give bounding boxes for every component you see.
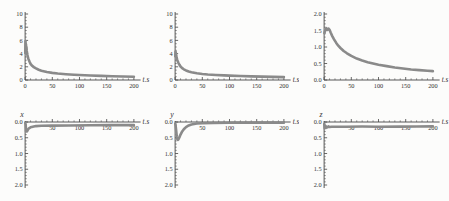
y-tick-label: 0.5 bbox=[314, 134, 322, 141]
y-tick-label: 1.5 bbox=[314, 165, 322, 172]
x-tick-label: 0 bbox=[24, 83, 27, 90]
y-tick-label: 2.0 bbox=[314, 181, 322, 188]
x-tick-label: 200 bbox=[279, 125, 288, 132]
y-tick-label: 4 bbox=[169, 50, 173, 57]
y-tick-label: 1.0 bbox=[314, 150, 322, 157]
y-tick-label: 2.0 bbox=[15, 181, 23, 188]
subplot-top-2: 0501001502000246810t.s bbox=[150, 0, 300, 100]
y-tick-label: 8 bbox=[169, 23, 172, 30]
y-tick-label: 0.0 bbox=[314, 118, 322, 125]
subplot-bottom-y-chart: 501001502000.00.51.01.52.0t.sy bbox=[150, 100, 300, 201]
y-tick-label: 6 bbox=[169, 37, 172, 44]
x-tick-label: 50 bbox=[199, 83, 205, 90]
y-tick-label: 0.0 bbox=[164, 118, 172, 125]
y-tick-label: 8 bbox=[19, 23, 22, 30]
y-tick-label: 2.0 bbox=[164, 181, 172, 188]
x-tick-label: 100 bbox=[224, 125, 233, 132]
y-tick-label: 0.5 bbox=[15, 134, 23, 141]
y-tick-label: 1.5 bbox=[314, 27, 322, 34]
x-tick-label: 100 bbox=[75, 83, 84, 90]
x-tick-label: 150 bbox=[102, 83, 111, 90]
data-curve bbox=[325, 28, 434, 71]
subplot-top-3-chart: 0501001502000.00.51.01.52.0t.s bbox=[299, 0, 449, 100]
subplot-bottom-z-chart: 501001502000.00.51.01.52.0t.sz bbox=[299, 100, 449, 201]
subplot-bottom-y: 501001502000.00.51.01.52.0t.sy bbox=[150, 100, 300, 201]
y-tick-label: 0.5 bbox=[314, 60, 322, 67]
x-tick-label: 0 bbox=[173, 83, 176, 90]
data-curve bbox=[175, 52, 284, 77]
y-tick-label: 1.5 bbox=[164, 165, 172, 172]
subplot-top-1: 0501001502000246810t.s bbox=[0, 0, 150, 100]
y-tick-label: 0 bbox=[19, 76, 22, 83]
y-tick-label: 2.0 bbox=[314, 10, 322, 17]
subplot-top-1-chart: 0501001502000246810t.s bbox=[0, 0, 150, 100]
time-axis-label: t.s bbox=[442, 76, 449, 84]
x-tick-label: 200 bbox=[428, 83, 437, 90]
y-tick-label: 0.0 bbox=[15, 118, 23, 125]
time-axis-label: t.s bbox=[143, 118, 150, 126]
x-tick-label: 0 bbox=[323, 83, 326, 90]
x-tick-label: 50 bbox=[49, 83, 55, 90]
y-tick-label: 0.0 bbox=[314, 76, 322, 83]
y-tick-label: 1.0 bbox=[314, 43, 322, 50]
figure-grid: 0501001502000246810t.s 05010015020002468… bbox=[0, 0, 449, 201]
subplot-bottom-z: 501001502000.00.51.01.52.0t.sz bbox=[299, 100, 449, 201]
x-tick-label: 50 bbox=[199, 125, 205, 132]
x-tick-label: 100 bbox=[374, 83, 383, 90]
coordinate-label: z bbox=[319, 110, 323, 119]
x-tick-label: 150 bbox=[401, 83, 410, 90]
subplot-bottom-x: 501001502000.00.51.01.52.0t.sx bbox=[0, 100, 150, 201]
y-tick-label: 6 bbox=[19, 37, 22, 44]
y-tick-label: 1.0 bbox=[164, 150, 172, 157]
time-axis-label: t.s bbox=[292, 118, 299, 126]
y-tick-label: 1.0 bbox=[15, 150, 23, 157]
y-tick-label: 1.5 bbox=[15, 165, 23, 172]
y-tick-label: 0 bbox=[169, 76, 172, 83]
subplot-bottom-x-chart: 501001502000.00.51.01.52.0t.sx bbox=[0, 100, 150, 201]
y-tick-label: 10 bbox=[16, 10, 22, 17]
x-tick-label: 200 bbox=[279, 83, 288, 90]
time-axis-label: t.s bbox=[442, 118, 449, 126]
time-axis-label: t.s bbox=[143, 76, 150, 84]
y-tick-label: 2 bbox=[19, 63, 22, 70]
x-tick-label: 150 bbox=[252, 125, 261, 132]
x-tick-label: 150 bbox=[252, 83, 261, 90]
y-tick-label: 2 bbox=[169, 63, 172, 70]
x-tick-label: 50 bbox=[348, 83, 354, 90]
coordinate-label: y bbox=[169, 110, 174, 119]
subplot-top-3: 0501001502000.00.51.01.52.0t.s bbox=[299, 0, 449, 100]
time-axis-label: t.s bbox=[292, 76, 299, 84]
x-tick-label: 200 bbox=[129, 83, 138, 90]
y-tick-label: 4 bbox=[19, 50, 23, 57]
subplot-top-2-chart: 0501001502000246810t.s bbox=[150, 0, 300, 100]
data-curve bbox=[25, 41, 134, 77]
y-tick-label: 10 bbox=[166, 10, 172, 17]
x-tick-label: 100 bbox=[224, 83, 233, 90]
coordinate-label: x bbox=[19, 110, 24, 119]
y-tick-label: 0.5 bbox=[164, 134, 172, 141]
